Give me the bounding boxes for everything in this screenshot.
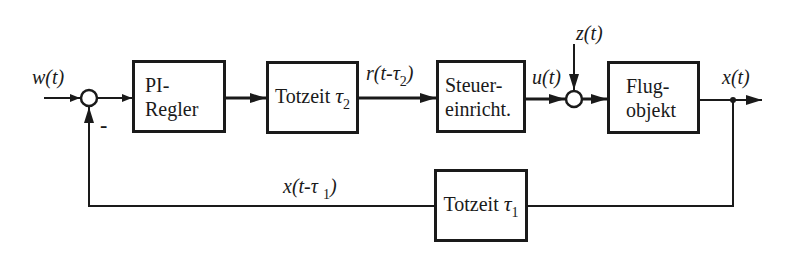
flug-line2: objekt [626,98,676,122]
signal-label-w: w(t) [32,66,64,89]
summing-junction-1 [81,90,97,106]
signal-label-u: u(t) [532,66,561,89]
totzeit1-label: Totzeit τ1 [443,192,518,219]
signal-label-x-delayed: x(t-τ 1) [283,175,337,198]
flug-line1: Flug- [626,74,669,98]
summing-junction-2 [566,91,582,107]
block-totzeit-2: Totzeit τ2 [266,61,359,134]
steuer-line2: einricht. [445,97,511,121]
signal-label-x: x(t) [722,66,750,89]
block-flugobjekt: Flug- objekt [607,61,700,134]
block-totzeit-1: Totzeit τ1 [434,169,528,242]
totzeit2-label: Totzeit τ2 [275,84,350,111]
block-pi-regler: PI- Regler [132,60,226,133]
block-steuereinrichtung: Steuer- einricht. [436,60,526,133]
minus-sign-feedback: - [100,112,107,138]
signal-label-r: r(t-τ2) [366,62,414,85]
branch-point-dot [730,97,736,103]
signal-label-z: z(t) [576,22,603,45]
pi-regler-line2: Regler [145,97,198,121]
steuer-line1: Steuer- [445,73,502,97]
pi-regler-line1: PI- [145,73,169,97]
